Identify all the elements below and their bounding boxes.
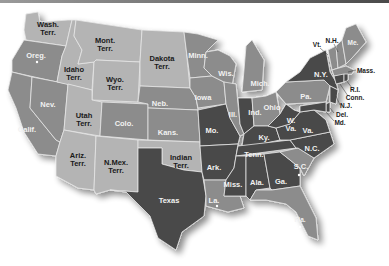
leader-line-del (330, 108, 334, 113)
label-wis: Wis. (218, 69, 233, 78)
label-va: Va. (303, 126, 314, 135)
label-ohio: Ohio (263, 103, 280, 112)
label-neb: Neb. (152, 99, 168, 108)
label-del: Del. (336, 111, 348, 118)
label-miss: Miss. (224, 180, 243, 189)
label-ill: Ill. (229, 110, 237, 119)
capital-dot-louisiana (216, 205, 218, 207)
label-nj: N.J. (340, 102, 352, 109)
label-calif: Calif. (18, 125, 36, 134)
label-minn: Minn. (188, 51, 208, 60)
label-sc: S.C. (294, 162, 309, 171)
label-indian-terr: Terr. (173, 161, 189, 170)
label-oreg: Oreg. (26, 51, 46, 60)
capital-dot-south-carolina (298, 174, 300, 176)
capital-dot-florida (299, 226, 301, 228)
state-rhode-island[interactable] (344, 74, 348, 82)
label-ind: Ind. (248, 108, 261, 117)
label-colo: Colo. (115, 119, 134, 128)
label-utah-terr: Terr. (76, 119, 92, 128)
label-wyo-terr: Terr. (107, 83, 123, 92)
label-conn: Conn. (346, 94, 365, 101)
capital-dot-oregon (36, 61, 38, 63)
label-ala: Ala. (250, 178, 264, 187)
label-ark: Ark. (207, 163, 222, 172)
label-fla: Fla. (294, 216, 305, 223)
state-connecticut[interactable] (334, 74, 344, 84)
label-md: Md. (334, 119, 345, 126)
label-ky: Ky. (258, 133, 269, 142)
label-vt: Vt. (313, 41, 322, 48)
state-florida[interactable] (250, 186, 318, 240)
state-delaware[interactable] (326, 102, 330, 112)
label-ariz-terr: Terr. (70, 159, 86, 168)
label-nh: N.H. (326, 37, 339, 44)
label-mich: Mich. (250, 79, 269, 88)
label-wash-terr: Terr. (40, 28, 56, 37)
label-ga: Ga. (275, 177, 287, 186)
label-dakota-terr: Terr. (154, 62, 170, 71)
label-mass: Mass. (357, 67, 375, 74)
label-mo: Mo. (206, 126, 219, 135)
label-ri: R.I. (350, 86, 360, 93)
label-nmex-terr: Terr. (108, 166, 124, 175)
label-nev: Nev. (40, 100, 55, 109)
label-ny: N.Y. (314, 70, 328, 79)
label-idaho-terr: Terr. (66, 73, 82, 82)
label-iowa: Iowa (195, 93, 212, 102)
label-wva-va: Va. (286, 124, 297, 133)
label-tenn: Tenn. (244, 150, 263, 159)
label-nc: N.C. (305, 144, 320, 153)
label-texas: Texas (159, 196, 180, 205)
label-pa: Pa. (300, 92, 311, 101)
us-map: Wash. Terr. Oreg. Calif. Idaho Terr. Nev… (0, 0, 389, 266)
label-mont-terr: Terr. (97, 44, 113, 53)
label-kans: Kans. (158, 128, 178, 137)
label-la: La. (209, 196, 220, 205)
leader-line-md (326, 112, 334, 121)
label-me: Me. (348, 39, 359, 46)
